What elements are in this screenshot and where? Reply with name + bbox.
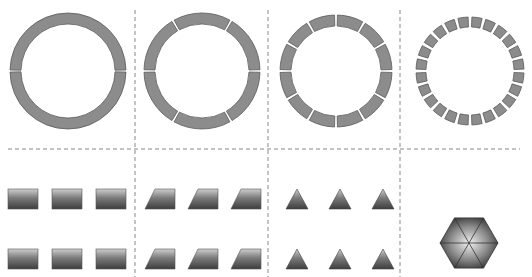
ring-segment: [226, 72, 260, 121]
ring-segment: [433, 25, 447, 39]
ring-segment: [360, 95, 384, 119]
segmented-rings: [10, 13, 524, 129]
ring-segment: [472, 114, 483, 125]
trapezoid-tile: [231, 189, 261, 209]
ring-segment: [309, 111, 335, 127]
ring-segment: [309, 15, 335, 31]
triangle-tile: [329, 249, 351, 269]
subdivision-diagram: [0, 0, 532, 277]
ring-segment: [493, 103, 507, 117]
ring-segment: [416, 59, 427, 70]
rectangle-tile: [8, 249, 38, 269]
ring-24-segments: [416, 17, 524, 125]
hexagon-tile: [440, 218, 498, 268]
ring-segment: [472, 17, 483, 28]
ring-segment: [360, 23, 384, 47]
ring-segment: [513, 59, 524, 70]
ring-segment: [418, 46, 431, 58]
ring-segment: [445, 110, 457, 123]
triangle-tile: [329, 189, 351, 209]
trapezoid-tile: [231, 249, 261, 269]
ring-segment: [288, 23, 312, 47]
ring-segment: [376, 44, 392, 70]
ring-segment: [509, 84, 522, 96]
ring-segment: [483, 110, 495, 123]
rectangle-tile: [96, 249, 126, 269]
ring-segment: [376, 72, 392, 98]
ring-segment: [337, 15, 363, 31]
ring-segment: [280, 44, 296, 70]
ring-segment: [288, 95, 312, 119]
ring-segment: [144, 21, 178, 70]
ring-segment: [280, 72, 296, 98]
ring-segment: [424, 94, 438, 108]
ring-segment: [424, 34, 438, 48]
ring-segment: [458, 17, 469, 28]
ring-segment: [509, 46, 522, 58]
ring-segment: [493, 25, 507, 39]
ring-12-segments: [280, 15, 392, 127]
triangle-tile: [286, 249, 308, 269]
ring-segment: [483, 19, 495, 32]
rectangle-tile: [96, 189, 126, 209]
rectangle-tile: [8, 189, 38, 209]
ring-segment: [418, 84, 431, 96]
ring-segment: [337, 111, 363, 127]
ring-segment: [144, 72, 178, 121]
trapezoid-tile: [145, 189, 175, 209]
ring-segment: [458, 114, 469, 125]
ring-segment: [10, 72, 126, 129]
rectangle-tile: [52, 249, 82, 269]
ring-segment: [10, 13, 126, 70]
triangle-tile: [286, 189, 308, 209]
ring-segment: [513, 73, 524, 84]
trapezoid-tile: [145, 249, 175, 269]
ring-segment: [226, 21, 260, 70]
ring-2-segments: [10, 13, 126, 129]
ring-segment: [174, 13, 230, 30]
ring-segment: [174, 112, 230, 129]
ring-segment: [502, 34, 516, 48]
triangle-tile: [372, 189, 394, 209]
trapezoid-tile: [188, 189, 218, 209]
ring-segment: [445, 19, 457, 32]
trapezoid-tile: [188, 249, 218, 269]
triangle-tile: [372, 249, 394, 269]
ring-6-segments: [144, 13, 260, 129]
ring-segment: [416, 73, 427, 84]
ring-segment: [502, 94, 516, 108]
rectangle-tile: [52, 189, 82, 209]
ring-segment: [433, 103, 447, 117]
tile-shapes: [8, 189, 498, 269]
